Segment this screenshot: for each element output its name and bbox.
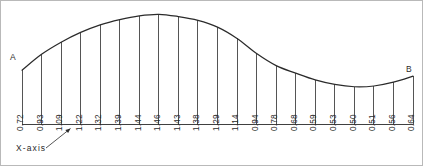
ordinate-value-label: 1.32 <box>94 114 103 131</box>
ordinate-value-label: 0.64 <box>407 114 416 131</box>
ordinate-value-label: 0.50 <box>349 114 358 131</box>
ordinate-value-label: 0.53 <box>329 114 338 131</box>
ordinate-value-label: 0.72 <box>16 114 25 131</box>
ordinate-value-label: 1.44 <box>134 114 143 131</box>
ordinate-value-label: 1.22 <box>75 114 84 131</box>
ordinate-value-label: 0.51 <box>368 114 377 131</box>
ordinate-value-label: 1.46 <box>153 114 162 131</box>
ordinate-value-label: 0.94 <box>251 114 260 131</box>
ordinate-value-label: 0.56 <box>388 114 397 131</box>
ordinate-value-label: 1.29 <box>212 114 221 131</box>
ordinate-value-label: 0.68 <box>290 114 299 131</box>
x-axis-caption: X-axis <box>16 143 46 153</box>
ordinate-value-label: 1.43 <box>173 114 182 131</box>
endpoint-label-b: B <box>406 64 412 74</box>
ordinate-value-label: 1.09 <box>55 114 64 131</box>
ordinate-value-label: 1.39 <box>114 114 123 131</box>
ordinate-value-label: 1.38 <box>192 114 201 131</box>
offset-ordinate-diagram: 0.720.931.091.221.321.391.441.461.431.38… <box>0 0 423 166</box>
ordinate-value-label: 0.93 <box>36 114 45 131</box>
curve-plot <box>0 0 423 166</box>
ordinate-value-label: 0.59 <box>309 114 318 131</box>
ordinate-value-label: 0.78 <box>270 114 279 131</box>
endpoint-label-a: A <box>10 52 16 62</box>
ordinate-value-label: 1.14 <box>231 114 240 131</box>
